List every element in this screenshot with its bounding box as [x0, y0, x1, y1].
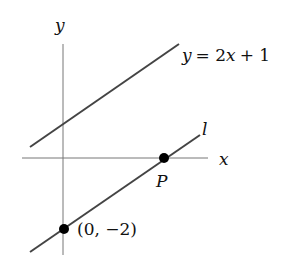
point-p-label: P: [155, 171, 168, 191]
equation-label: y= 2x+ 1: [181, 45, 270, 65]
coordinate-diagram: y x y= 2x+ 1 l P (0, −2): [0, 0, 291, 265]
x-axis-label: x: [219, 149, 229, 169]
point-y-intercept: [59, 224, 69, 234]
point-intercept-label: (0, −2): [77, 219, 137, 239]
y-axis-label: y: [54, 15, 65, 35]
line-y-2x-plus-1: [30, 44, 179, 147]
line-l-label: l: [202, 119, 207, 139]
point-p: [159, 153, 169, 163]
